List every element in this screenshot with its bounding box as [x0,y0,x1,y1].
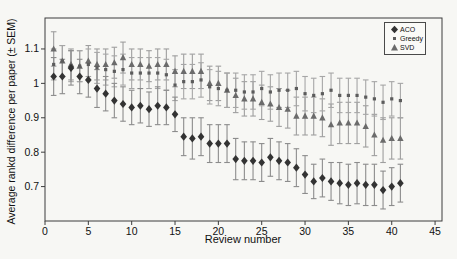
data-point-marker [319,114,325,120]
data-point-marker [321,92,324,95]
data-point-marker [120,100,127,108]
data-point-marker [146,63,152,69]
data-point-marker [180,68,186,74]
data-point-marker [302,170,309,178]
legend-item-aco: ACO [389,25,422,34]
data-point-marker [215,80,221,86]
data-point-marker [267,101,273,107]
data-point-marker [163,103,170,111]
data-point-marker [284,158,291,166]
data-point-marker [198,68,204,74]
y-tick-label: 0.9 [24,111,39,123]
data-point-marker [130,71,133,74]
data-point-marker [52,63,55,66]
data-point-marker [251,90,254,93]
data-point-marker [243,90,246,93]
data-point-marker [68,64,75,72]
data-point-marker [277,89,280,92]
data-point-marker [146,105,153,113]
data-point-marker [215,139,222,147]
data-point-marker [355,94,358,97]
data-point-marker [302,113,308,119]
diamond-glyph [389,25,400,34]
data-point-marker [241,95,247,101]
square-glyph [389,34,400,43]
data-point-marker [293,164,300,172]
data-point-marker [381,101,384,104]
legend: ACO Greedy SVD [384,22,426,55]
data-point-marker [50,72,57,80]
data-point-marker [276,157,283,165]
data-point-marker [206,139,213,147]
data-point-marker [232,155,239,163]
data-point-marker [259,99,265,105]
data-point-marker [362,181,369,189]
data-point-marker [172,110,179,118]
x-tick-label: 45 [429,225,441,237]
data-point-marker [371,181,378,189]
data-point-marker [165,73,168,76]
data-point-marker [128,61,134,67]
triangle-marker-icon [389,43,400,52]
y-tick-label: 1.1 [24,42,39,54]
data-point-marker [156,71,159,74]
data-point-marker [250,95,256,101]
x-axis-label: Review number [143,233,343,245]
data-point-marker [76,72,83,80]
data-point-marker [390,97,393,100]
data-point-marker [241,157,248,165]
data-point-marker [208,85,211,88]
data-point-marker [113,70,116,73]
data-point-marker [189,134,196,142]
data-point-marker [285,106,291,112]
data-point-marker [180,133,187,141]
data-point-marker [94,84,101,92]
data-point-marker [173,83,176,86]
data-point-marker [312,94,315,97]
data-point-marker [121,68,124,71]
x-tick-label: 5 [85,225,91,237]
data-point-marker [163,61,169,67]
series-Greedy-errorbars [51,46,403,120]
data-point-marker [104,68,107,71]
data-point-marker [337,119,343,125]
square-marker-icon [389,34,400,43]
data-point-marker [329,89,332,92]
data-point-marker [147,71,150,74]
figure: 0510152025303540450.70.80.911.1 Average … [0,0,457,259]
data-point-marker [139,71,142,74]
diamond-marker-icon [389,25,400,34]
data-point-marker [191,80,194,83]
data-point-marker [250,157,257,165]
data-point-marker [347,94,350,97]
legend-item-greedy: Greedy [389,34,422,43]
x-tick-label: 0 [42,225,48,237]
data-point-marker [94,61,100,67]
data-point-marker [397,179,404,187]
data-point-marker [295,87,298,90]
legend-label-svd: SVD [400,43,414,52]
legend-label-greedy: Greedy [400,34,423,43]
data-point-marker [371,131,377,137]
data-point-marker [137,102,144,110]
legend-item-svd: SVD [389,43,422,52]
data-point-marker [338,94,341,97]
y-tick-label: 0.7 [24,180,39,192]
data-point-marker [267,153,274,161]
data-point-marker [397,135,403,141]
y-axis-label: Average rankd difference per paper (± SE… [5,2,18,242]
x-tick-label: 10 [126,225,138,237]
data-point-marker [87,63,90,66]
data-point-marker [154,61,160,67]
data-point-marker [182,80,185,83]
data-point-marker [311,113,317,119]
data-point-marker [286,89,289,92]
data-point-marker [111,96,118,104]
data-point-marker [303,92,306,95]
data-point-marker [354,119,360,125]
data-point-marker [111,59,117,65]
data-point-marker [232,92,238,98]
y-tick-label: 0.8 [24,146,39,158]
data-point-marker [234,89,237,92]
data-point-marker [154,102,161,110]
